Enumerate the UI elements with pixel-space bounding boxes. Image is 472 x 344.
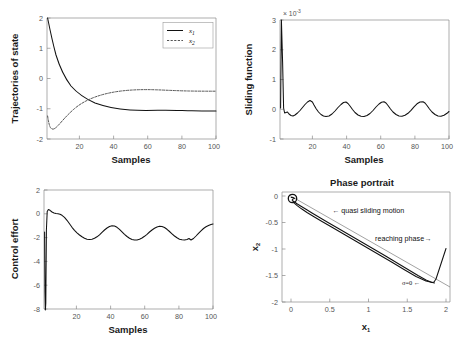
panel-trajectories-of-state: 2 1 0 -1 -2 20 40 60 80 100 xyxy=(0,0,236,172)
x-ticks: 0 0.5 1 1.5 2 xyxy=(289,299,448,314)
x-tick-label: 40 xyxy=(110,142,118,151)
annotation-quasi-sliding-motion: ← quasi sliding motion xyxy=(332,206,404,215)
y-tick-label: 2 xyxy=(39,14,43,23)
panel-phase-portrait: Phase portrait 0 -0.5 -1 -1.5 -2 xyxy=(236,172,472,344)
x-tick-label: 20 xyxy=(75,142,83,151)
panel-control-effort: 2 0 -2 -4 -6 -8 20 40 60 80 100 Co xyxy=(0,172,236,344)
y-axis-title: Trajectories of state xyxy=(9,34,20,124)
y-ticks: 0 -0.5 -1 -1.5 -2 xyxy=(266,192,286,307)
annotation-sigma-zero: σ=0 ← xyxy=(402,279,420,286)
x-tick-label: 100 xyxy=(208,142,220,151)
x-tick-label: 40 xyxy=(343,142,351,151)
chart-title: Phase portrait xyxy=(330,177,395,188)
y-axis-exponent: × 10-3 xyxy=(283,8,301,17)
y-axis-title: Sliding function xyxy=(243,43,254,115)
y-tick-label: 2 xyxy=(272,45,276,54)
y-tick-label: 3 xyxy=(272,16,276,25)
x-axis-title: Samples xyxy=(344,154,383,165)
y-tick-label: -6 xyxy=(34,281,40,290)
phase-portrait-chart: Phase portrait 0 -0.5 -1 -1.5 -2 xyxy=(236,172,472,344)
x-tick-label: 2 xyxy=(444,305,448,314)
y-axis-title: Control effort xyxy=(9,218,20,280)
y-tick-label: -2 xyxy=(272,298,278,307)
x-tick-label: 20 xyxy=(72,312,80,321)
x-tick-label: 20 xyxy=(308,142,316,151)
y-tick-label: 0 xyxy=(272,105,276,114)
y-tick-label: 2 xyxy=(36,186,40,195)
y-tick-label: -1 xyxy=(272,245,278,254)
y-tick-label: 0 xyxy=(36,209,40,218)
x-ticks: 20 40 60 80 100 xyxy=(308,136,453,151)
x-tick-label: 0.5 xyxy=(325,305,335,314)
x-axis-title: x1 xyxy=(362,321,370,333)
x-tick-label: 1.5 xyxy=(402,305,412,314)
x-tick-label: 60 xyxy=(141,312,149,321)
x-tick-label: 80 xyxy=(178,142,186,151)
axes-frame xyxy=(44,190,213,309)
y-tick-label: -2 xyxy=(34,233,40,242)
y-tick-label: -1.5 xyxy=(266,271,278,280)
panel-sliding-function: 3 2 1 0 -1 20 40 60 80 100 × 10-3 xyxy=(236,0,472,172)
y-tick-label: -0.5 xyxy=(266,218,278,227)
control-effort-chart: 2 0 -2 -4 -6 -8 20 40 60 80 100 Co xyxy=(0,172,236,344)
y-tick-label: -2 xyxy=(37,135,43,144)
x-tick-label: 40 xyxy=(107,312,115,321)
x-tick-label: 80 xyxy=(411,142,419,151)
y-tick-label: -4 xyxy=(34,257,40,266)
curve-x2 xyxy=(48,90,216,130)
x-tick-label: 60 xyxy=(377,142,385,151)
x-ticks: 20 40 60 80 100 xyxy=(75,136,220,151)
y-tick-label: -8 xyxy=(34,305,40,314)
y-tick-label: -1 xyxy=(37,104,43,113)
y-ticks: 2 1 0 -1 -2 xyxy=(37,14,51,144)
x-axis-title: Samples xyxy=(111,154,150,165)
x-tick-label: 60 xyxy=(144,142,152,151)
x-tick-label: 0 xyxy=(289,305,293,314)
x-tick-label: 1 xyxy=(367,305,371,314)
x-tick-label: 100 xyxy=(205,312,217,321)
axes-frame xyxy=(280,20,449,139)
y-tick-label: 1 xyxy=(272,75,276,84)
trajectories-of-state-chart: 2 1 0 -1 -2 20 40 60 80 100 xyxy=(0,0,236,172)
x-axis-title: Samples xyxy=(108,324,147,335)
y-tick-label: 0 xyxy=(39,74,43,83)
annotation-reaching-phase: reaching phase→ xyxy=(375,234,431,243)
curve-sliding-function xyxy=(281,20,449,117)
y-tick-label: 1 xyxy=(39,44,43,53)
x-tick-label: 100 xyxy=(441,142,453,151)
curve-control-effort xyxy=(45,210,213,311)
y-tick-label: 0 xyxy=(274,192,278,201)
matlab-figure-canvas: 2 1 0 -1 -2 20 40 60 80 100 xyxy=(0,0,472,344)
legend: x1 x2 xyxy=(163,23,213,49)
x-ticks: 20 40 60 80 100 xyxy=(72,306,217,321)
y-tick-label: -1 xyxy=(270,135,276,144)
sliding-function-chart: 3 2 1 0 -1 20 40 60 80 100 × 10-3 xyxy=(236,0,472,172)
x-tick-label: 80 xyxy=(175,312,183,321)
y-axis-title: x2 xyxy=(249,243,261,251)
